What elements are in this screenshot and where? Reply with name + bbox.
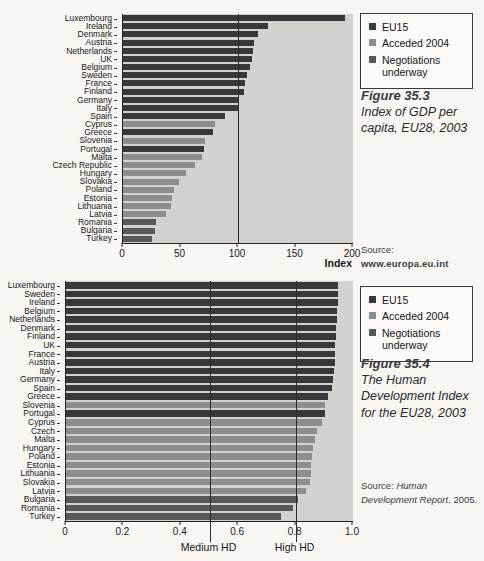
legend-swatch-icon: [369, 329, 376, 336]
bar-turkey: [123, 236, 152, 242]
y-axis-tick: [114, 141, 117, 142]
x-tick-label: 100: [229, 248, 246, 259]
y-axis-tick: [57, 500, 60, 501]
y-axis-tick: [114, 207, 117, 208]
y-axis-tick: [114, 117, 117, 118]
bar-ireland: [66, 299, 338, 306]
bar-latvia: [66, 488, 306, 495]
y-axis-tick: [57, 371, 60, 372]
y-axis-tick: [57, 380, 60, 381]
bar-spain: [123, 113, 225, 119]
bar-romania: [66, 505, 293, 512]
figure-number: Figure 35.4: [361, 356, 481, 371]
bar-cyprus: [66, 419, 322, 426]
x-tick-label: 0: [62, 526, 68, 537]
bar-france: [123, 80, 245, 86]
bar-estonia: [66, 462, 311, 469]
y-axis-tick: [57, 311, 60, 312]
x-axis-tick: [122, 243, 123, 247]
bar-cyprus: [123, 121, 215, 127]
y-axis-tick: [114, 174, 117, 175]
bar-hungary: [66, 445, 313, 452]
bar-austria: [66, 359, 335, 366]
x-axis-tick: [122, 521, 123, 525]
x-tick-label: 0.8: [288, 526, 302, 537]
bar-germany: [123, 97, 239, 103]
hdi-x-axis: 00.20.40.60.81.0Medium HDHigh HD: [65, 521, 352, 559]
x-axis-tick: [237, 243, 238, 247]
x-axis-tick: [65, 521, 66, 525]
y-axis-tick: [114, 35, 117, 36]
bar-italy: [123, 105, 238, 111]
legend-item: EU15: [369, 294, 464, 306]
figure-35-4-caption: Figure 35.4 The Human Development Index …: [361, 356, 481, 421]
bar-ireland: [123, 23, 268, 29]
y-axis-tick: [114, 43, 117, 44]
y-axis-tick: [57, 337, 60, 338]
legend-label: Acceded 2004: [382, 310, 449, 322]
bar-uk: [123, 56, 252, 62]
country-label: Turkey: [86, 234, 112, 243]
bar-greece: [66, 393, 328, 400]
bar-slovakia: [123, 179, 179, 185]
y-axis-tick: [57, 406, 60, 407]
bar-portugal: [66, 410, 325, 417]
bar-luxembourg: [66, 282, 338, 289]
bar-germany: [66, 376, 333, 383]
source-year: , 2005.: [448, 494, 477, 505]
x-tick-label: 1.0: [345, 526, 359, 537]
hdi-country-axis: LuxembourgSwedenIrelandBelgiumNetherland…: [0, 281, 60, 521]
y-axis-tick: [57, 474, 60, 475]
x-tick-label: 50: [174, 248, 185, 259]
figure-title: The Human Development Index for the EU28…: [361, 372, 481, 421]
legend-gdp: EU15Acceded 2004Negotiations underway: [360, 13, 473, 89]
gdp-plot-area: [122, 14, 353, 244]
bar-lithuania: [123, 203, 171, 209]
y-axis-tick: [114, 215, 117, 216]
legend-label: EU15: [382, 21, 408, 33]
x-tick-label: 0.2: [115, 526, 129, 537]
figure-title: Index of GDP per capita, EU28, 2003: [361, 104, 481, 137]
bar-slovenia: [123, 138, 205, 144]
bar-austria: [123, 40, 254, 46]
bar-latvia: [123, 211, 166, 217]
y-axis-tick: [114, 51, 117, 52]
bar-portugal: [123, 146, 204, 152]
bar-poland: [123, 187, 174, 193]
reference-line: [210, 281, 211, 542]
y-axis-tick: [57, 346, 60, 347]
bar-sweden: [123, 72, 247, 78]
bar-finland: [123, 89, 244, 95]
gdp-source: Source: www.europa.eu.int: [361, 243, 483, 272]
hdi-plot-area: [65, 281, 353, 522]
y-axis-tick: [114, 239, 117, 240]
bar-bulgaria: [123, 228, 155, 234]
y-axis-tick: [57, 363, 60, 364]
y-axis-tick: [57, 397, 60, 398]
y-axis-tick: [57, 423, 60, 424]
y-axis-tick: [57, 294, 60, 295]
bar-slovakia: [66, 479, 310, 486]
bar-luxembourg: [123, 15, 345, 21]
legend-swatch-icon: [369, 312, 376, 319]
bar-sweden: [66, 291, 338, 298]
bar-bulgaria: [66, 496, 298, 503]
x-axis-tick: [179, 243, 180, 247]
y-axis-tick: [57, 483, 60, 484]
bar-greece: [123, 129, 213, 135]
y-axis-tick: [57, 303, 60, 304]
bar-estonia: [123, 195, 172, 201]
bar-czech: [66, 428, 317, 435]
y-axis-tick: [57, 448, 60, 449]
y-axis-tick: [114, 223, 117, 224]
bar-czech-republic: [123, 162, 195, 168]
y-axis-tick: [114, 182, 117, 183]
y-axis-tick: [114, 84, 117, 85]
x-tick-label: 0.6: [230, 526, 244, 537]
country-label: Turkey: [29, 512, 55, 521]
x-axis-tick: [237, 521, 238, 525]
figure-number: Figure 35.3: [361, 88, 481, 103]
x-tick-label: 0.4: [173, 526, 187, 537]
legend-item: Acceded 2004: [369, 310, 464, 322]
bar-hungary: [123, 170, 186, 176]
